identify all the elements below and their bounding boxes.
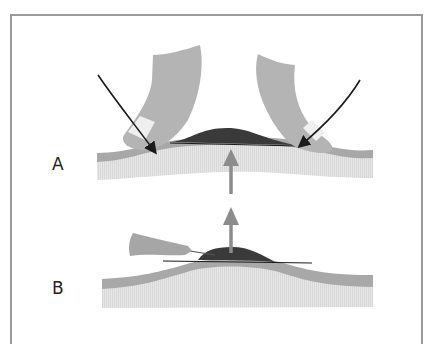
- panel-a: [97, 45, 373, 194]
- force-arrow-b: [223, 207, 239, 253]
- panel-b: [102, 207, 373, 308]
- lesion-a: [172, 128, 295, 145]
- needle-hub: [129, 233, 192, 256]
- left-finger: [123, 45, 202, 150]
- dermis-layer-b: [102, 263, 373, 308]
